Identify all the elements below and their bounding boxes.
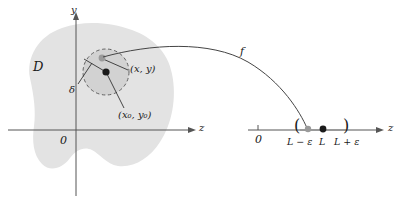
moving-point-label: (x, y)	[130, 64, 155, 74]
center-point-label: (x₀, y₀)	[118, 110, 151, 120]
number-line-arrowhead	[376, 127, 384, 133]
origin-label-number-line: 0	[255, 134, 262, 145]
delta-label: δ	[69, 85, 75, 95]
z-axis-label-left: z	[199, 123, 204, 133]
center-point-dot	[102, 68, 109, 75]
lower-bound-label: L − ε	[287, 137, 312, 147]
left-bracket: (	[294, 118, 300, 134]
limit-definition-figure: D y z 0 δ (x, y) (x₀, y₀) f 0 ( ) L − ε …	[0, 0, 411, 202]
upper-bound-label: L + ε	[334, 137, 359, 147]
z-axis-label-right: z	[388, 123, 393, 133]
z-axis-left-arrowhead	[188, 127, 196, 133]
right-bracket: )	[343, 118, 349, 134]
domain-region-shape	[29, 23, 174, 169]
origin-label-left: 0	[60, 135, 67, 146]
domain-region-label: D	[33, 60, 43, 73]
limit-label: L	[319, 137, 325, 147]
function-label-f: f	[240, 46, 244, 57]
image-point-dot	[305, 126, 311, 132]
diagram-canvas	[0, 0, 411, 202]
limit-point-dot	[320, 126, 327, 133]
y-axis-label: y	[71, 5, 77, 15]
moving-point-dot	[99, 55, 106, 62]
